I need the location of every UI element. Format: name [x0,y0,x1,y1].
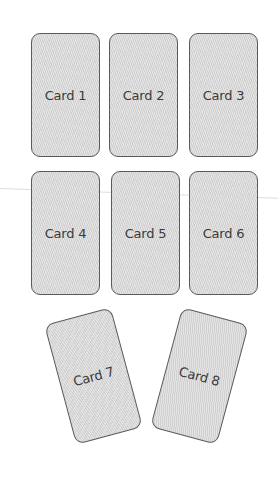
card-1[interactable]: Card 1 [31,33,100,157]
card-7[interactable]: Card 7 [44,307,143,445]
card-label: Card 7 [71,363,115,388]
card-label: Card 6 [203,226,245,241]
card-label: Card 8 [177,363,221,388]
card-2[interactable]: Card 2 [109,33,178,157]
card-label: Card 3 [203,88,245,103]
card-3[interactable]: Card 3 [189,33,258,157]
card-label: Card 1 [45,88,87,103]
card-6[interactable]: Card 6 [189,171,258,295]
card-8[interactable]: Card 8 [150,307,249,445]
card-label: Card 2 [123,88,165,103]
card-4[interactable]: Card 4 [31,171,100,295]
card-layout: Card 1 Card 2 Card 3 Card 4 Card 5 Card … [0,0,278,478]
card-label: Card 5 [125,226,167,241]
card-5[interactable]: Card 5 [111,171,180,295]
card-label: Card 4 [45,226,87,241]
